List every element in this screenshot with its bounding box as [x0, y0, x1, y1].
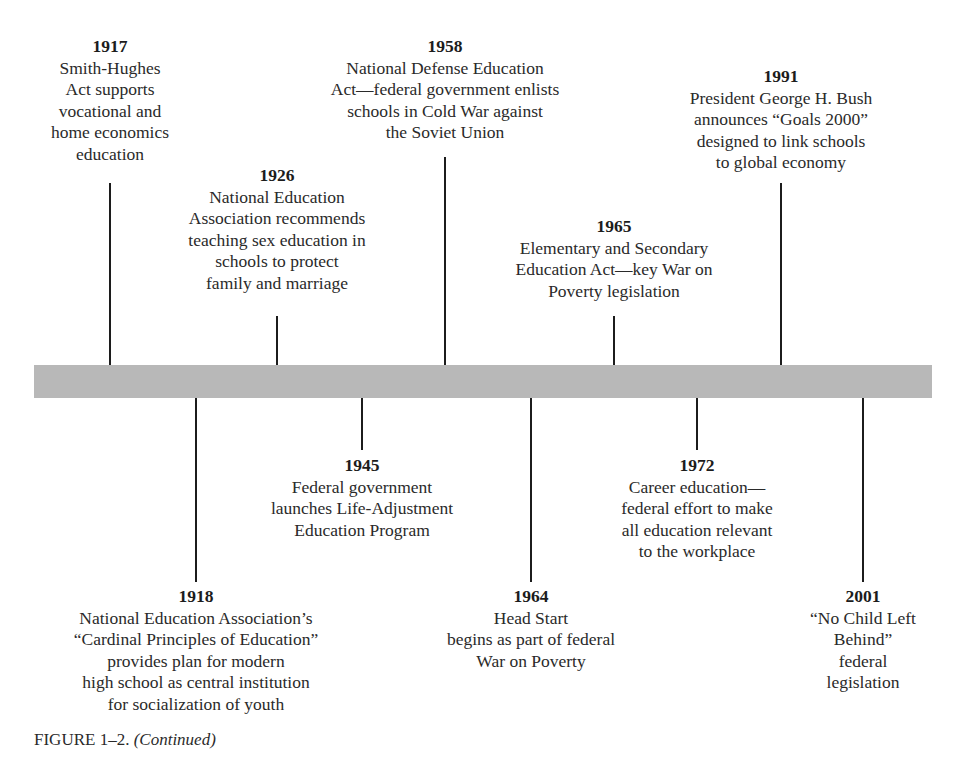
stem-1917	[109, 183, 111, 365]
event-text: federal effort to make	[621, 498, 773, 520]
event-text: education	[51, 144, 169, 166]
event-text: legislation	[810, 672, 916, 694]
event-text: Behind”	[810, 629, 916, 651]
event-text: “Cardinal Principles of Education”	[74, 629, 318, 651]
figure-note: (Continued)	[134, 730, 216, 749]
event-text: all education relevant	[621, 520, 773, 542]
event-1917: 1917 Smith-Hughes Act supports vocationa…	[51, 36, 169, 165]
event-text: high school as central institution	[74, 672, 318, 694]
event-year: 1964	[447, 586, 615, 608]
event-text: to global economy	[690, 152, 872, 174]
event-text: announces “Goals 2000”	[690, 109, 872, 131]
event-text: Association recommends	[188, 208, 365, 230]
event-text: Act supports	[51, 79, 169, 101]
event-text: vocational and	[51, 101, 169, 123]
stem-2001	[862, 398, 864, 582]
event-text: schools to protect	[188, 251, 365, 273]
event-text: Career education—	[621, 477, 773, 499]
event-1958: 1958 National Defense Education Act—fede…	[331, 36, 559, 144]
stem-1964	[530, 398, 532, 582]
stem-1958	[444, 157, 446, 365]
event-text: Act—federal government enlists	[331, 79, 559, 101]
timeline-bar	[34, 365, 932, 398]
event-2001: 2001 “No Child Left Behind” federal legi…	[810, 586, 916, 694]
event-year: 1918	[74, 586, 318, 608]
event-text: Poverty legislation	[515, 281, 712, 303]
event-text: Smith-Hughes	[51, 58, 169, 80]
stem-1991	[780, 183, 782, 365]
figure-caption: FIGURE 1–2. (Continued)	[34, 730, 216, 750]
event-text: War on Poverty	[447, 651, 615, 673]
event-year: 2001	[810, 586, 916, 608]
event-text: to the workplace	[621, 541, 773, 563]
event-1965: 1965 Elementary and Secondary Education …	[515, 216, 712, 302]
event-text: Federal government	[271, 477, 453, 499]
event-text: federal	[810, 651, 916, 673]
event-1945: 1945 Federal government launches Life-Ad…	[271, 455, 453, 541]
event-text: National Defense Education	[331, 58, 559, 80]
event-text: National Education	[188, 187, 365, 209]
event-year: 1965	[515, 216, 712, 238]
stem-1926	[276, 316, 278, 365]
event-text: Education Program	[271, 520, 453, 542]
event-year: 1926	[188, 165, 365, 187]
event-1972: 1972 Career education— federal effort to…	[621, 455, 773, 563]
event-text: family and marriage	[188, 273, 365, 295]
event-text: National Education Association’s	[74, 608, 318, 630]
event-text: designed to link schools	[690, 131, 872, 153]
stem-1972	[696, 398, 698, 450]
event-text: home economics	[51, 122, 169, 144]
event-1918: 1918 National Education Association’s “C…	[74, 586, 318, 715]
event-year: 1917	[51, 36, 169, 58]
event-text: the Soviet Union	[331, 122, 559, 144]
event-text: Education Act—key War on	[515, 259, 712, 281]
event-1991: 1991 President George H. Bush announces …	[690, 66, 872, 174]
event-text: for socialization of youth	[74, 694, 318, 716]
event-text: begins as part of federal	[447, 629, 615, 651]
event-1964: 1964 Head Start begins as part of federa…	[447, 586, 615, 672]
event-year: 1991	[690, 66, 872, 88]
event-text: “No Child Left	[810, 608, 916, 630]
event-text: teaching sex education in	[188, 230, 365, 252]
stem-1945	[361, 398, 363, 450]
event-year: 1972	[621, 455, 773, 477]
stem-1918	[195, 398, 197, 582]
event-year: 1945	[271, 455, 453, 477]
event-1926: 1926 National Education Association reco…	[188, 165, 365, 294]
event-text: provides plan for modern	[74, 651, 318, 673]
event-text: President George H. Bush	[690, 88, 872, 110]
stem-1965	[613, 316, 615, 365]
event-text: schools in Cold War against	[331, 101, 559, 123]
event-year: 1958	[331, 36, 559, 58]
event-text: launches Life-Adjustment	[271, 498, 453, 520]
figure-label: FIGURE 1–2.	[34, 730, 129, 749]
event-text: Head Start	[447, 608, 615, 630]
event-text: Elementary and Secondary	[515, 238, 712, 260]
